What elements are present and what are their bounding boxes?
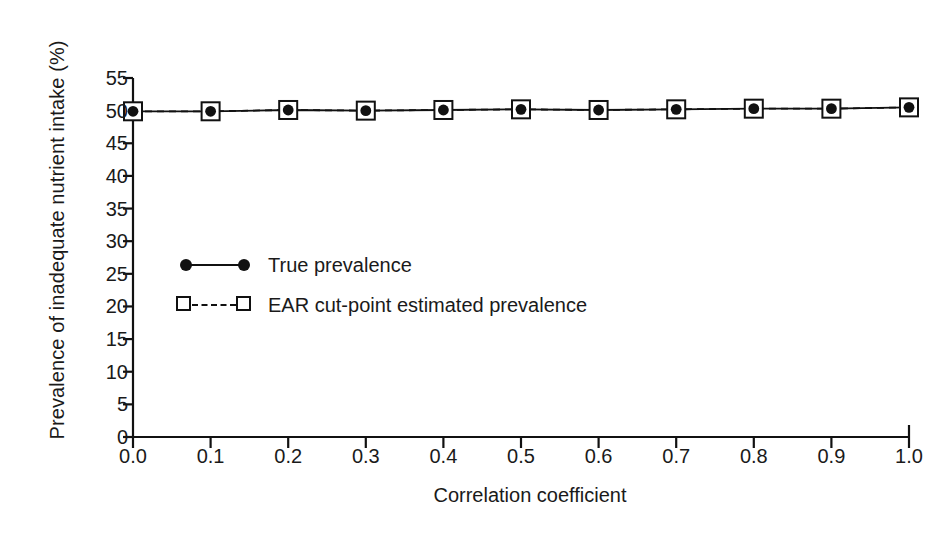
y-axis-tick-label: 45 (82, 133, 128, 153)
y-axis-tick-label: 50 (82, 101, 128, 121)
y-axis-tick-label: 25 (82, 264, 128, 284)
y-axis-tick-label: 40 (82, 166, 128, 186)
open-square-icon (176, 296, 191, 311)
y-axis-tick-label: 0 (82, 427, 128, 447)
x-axis-tick-label: 0.9 (796, 446, 866, 466)
y-axis-tick-label: 15 (82, 329, 128, 349)
chart-legend: True prevalence EAR cut-point estimated … (176, 245, 696, 325)
y-axis-tick-label: 55 (82, 68, 128, 88)
x-axis-tick-labels: 0.00.10.20.30.40.50.60.70.80.91.0 (0, 446, 950, 476)
x-axis-tick-label: 0.6 (564, 446, 634, 466)
y-axis-title: Prevalence of inadequate nutrient intake… (40, 25, 74, 455)
x-axis-tick-label: 0.5 (486, 446, 556, 466)
x-axis-tick-label: 0.8 (719, 446, 789, 466)
y-axis-tick-label: 10 (82, 362, 128, 382)
filled-circle-icon (180, 259, 192, 271)
y-axis-tick-label: 20 (82, 296, 128, 316)
dashed-line-icon (192, 304, 236, 306)
x-axis-tick-label: 0.1 (176, 446, 246, 466)
legend-key-filled-circle-line (176, 252, 258, 278)
chart-figure: Prevalence of inadequate nutrient intake… (0, 0, 950, 539)
filled-circle-icon (238, 259, 250, 271)
solid-line-icon (184, 264, 244, 266)
y-axis-tick-label: 5 (82, 394, 128, 414)
legend-item-ear-cut-point: EAR cut-point estimated prevalence (176, 285, 696, 325)
x-axis-tick-label: 0.7 (641, 446, 711, 466)
y-axis-tick-label: 30 (82, 231, 128, 251)
x-axis-tick-label: 1.0 (874, 446, 944, 466)
x-axis-tick-label: 0.3 (331, 446, 401, 466)
legend-item-true-prevalence: True prevalence (176, 245, 696, 285)
y-axis-tick-label: 35 (82, 199, 128, 219)
x-axis-title: Correlation coefficient (110, 484, 950, 507)
x-axis-tick-label: 0.2 (253, 446, 323, 466)
legend-key-open-square-dashed (176, 292, 258, 318)
open-square-icon (236, 296, 251, 311)
x-axis-tick-label: 0.4 (408, 446, 478, 466)
x-axis-tick-label: 0.0 (98, 446, 168, 466)
legend-label: True prevalence (258, 254, 412, 277)
legend-label: EAR cut-point estimated prevalence (258, 294, 587, 317)
